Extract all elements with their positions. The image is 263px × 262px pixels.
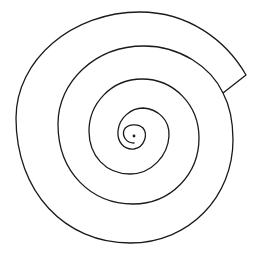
spiral-drawing-canvas xyxy=(0,0,263,262)
spiral-drawing xyxy=(0,0,263,262)
spiral-center-dot xyxy=(133,135,136,138)
spiral-line xyxy=(16,12,246,243)
